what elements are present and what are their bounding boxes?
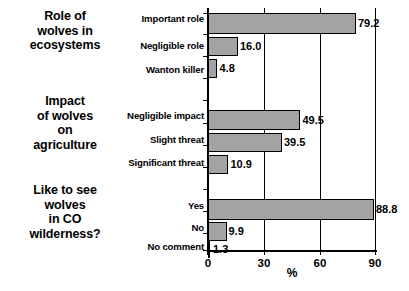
bar-value-slight-threat: 39.5 [284,136,305,148]
bar-value-significant-threat: 10.9 [231,158,252,170]
bar-value-no-comment: 1.3 [213,243,228,255]
x-axis-title: % [208,266,376,280]
bar-no-comment [208,240,210,258]
bar-value-negligible-impact: 49.5 [303,114,324,126]
bar-negligible-impact [208,110,300,130]
category-label-no: No [192,222,205,233]
x-tick-60 [320,250,321,255]
bar-value-yes: 88.8 [376,203,397,215]
bar-chart: Role of wolves in ecosystems Impact of w… [0,0,409,291]
bar-wanton-killer [208,59,217,78]
bar-negligible-role [208,37,238,56]
y-tick [203,189,208,190]
bar-important-role [208,13,356,34]
category-label-slight-threat: Slight threat [150,134,204,145]
y-tick [203,100,208,101]
y-tick [203,56,208,57]
category-label-significant-threat: Significant threat [128,157,204,168]
bar-value-wanton-killer: 4.8 [220,62,235,74]
x-tick-90 [375,250,376,255]
x-axis-line [207,250,377,252]
category-label-important-role: Important role [142,13,204,24]
category-label-yes: Yes [188,200,204,211]
y-tick [203,34,208,35]
category-label-layer: Important role Negligible role Wanton ki… [0,0,204,291]
category-label-wanton-killer: Wanton killer [146,64,204,75]
bar-value-important-role: 79.2 [358,17,379,29]
category-label-no-comment: No comment [147,241,204,252]
category-label-negligible-role: Negligible role [140,40,204,51]
category-label-negligible-impact: Negligible impact [127,110,204,121]
bar-slight-threat [208,133,282,152]
bar-value-no: 9.9 [229,225,244,237]
y-tick [203,78,208,79]
plot-area: 79.2 16.0 4.8 49.5 39.5 10.9 88.8 9.9 1.… [208,8,376,250]
x-tick-30 [264,250,265,255]
bar-no [208,222,227,241]
bar-yes [208,199,374,220]
bar-significant-threat [208,155,228,174]
bar-value-negligible-role: 16.0 [240,40,261,52]
